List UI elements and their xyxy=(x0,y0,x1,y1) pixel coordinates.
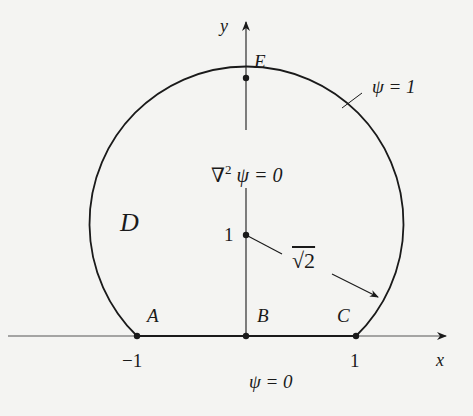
radius-label: √2 xyxy=(292,250,315,272)
region-d-label: D xyxy=(120,210,139,236)
equation-rest: ψ = 0 xyxy=(231,164,282,186)
radius-arrow xyxy=(332,274,378,297)
point-a-dot xyxy=(134,333,140,339)
tick-label-neg-1: −1 xyxy=(122,351,142,370)
laplace-equation: ∇2 ψ = 0 xyxy=(211,163,282,185)
boundary-psi-0-label: ψ = 0 xyxy=(249,372,293,391)
radius-line xyxy=(246,235,282,254)
tick-label-center-1: 1 xyxy=(224,225,234,244)
nabla-symbol: ∇ xyxy=(211,164,225,186)
point-c-dot xyxy=(353,333,359,339)
point-c-label: C xyxy=(337,306,350,325)
point-b-label: B xyxy=(257,306,269,325)
y-axis-label: y xyxy=(220,17,228,35)
diagram-canvas xyxy=(0,0,473,416)
tick-label-pos-1: 1 xyxy=(350,351,360,370)
point-e-dot xyxy=(243,75,249,81)
point-a-label: A xyxy=(147,306,159,325)
point-e-label: E xyxy=(254,52,266,71)
x-axis-label: x xyxy=(436,351,444,369)
point-b-dot xyxy=(243,333,249,339)
center-dot xyxy=(243,232,249,238)
boundary-psi-1-label: ψ = 1 xyxy=(372,77,416,96)
